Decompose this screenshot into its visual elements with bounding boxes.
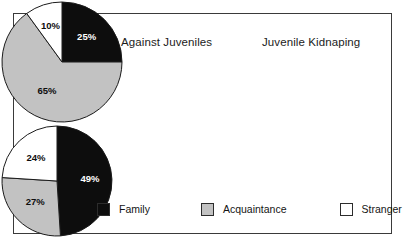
legend-item-stranger: Stranger <box>340 203 402 216</box>
pie-label-stranger: 24% <box>26 152 46 163</box>
legend-swatch-acquaintance <box>201 203 214 216</box>
pie-label-family: 49% <box>80 173 100 184</box>
legend-item-acquaintance: Acquaintance <box>201 203 287 216</box>
chart-title-right: Juvenile Kidnaping <box>262 36 360 48</box>
legend-swatch-family <box>97 203 110 216</box>
pie-label-acquaintance: 65% <box>38 85 58 96</box>
pie-right-svg: 49% 27% 24% <box>0 124 114 238</box>
pie-label-family: 25% <box>77 31 97 42</box>
pie-left-svg: 25% 65% 10% <box>0 0 124 124</box>
pie-chart-right: 49% 27% 24% <box>0 124 114 238</box>
legend-swatch-stranger <box>340 203 353 216</box>
pie-left-slices <box>2 2 122 122</box>
pie-chart-left: 25% 65% 10% <box>0 0 124 124</box>
pie-label-stranger: 10% <box>41 20 61 31</box>
legend-label-acquaintance: Acquaintance <box>223 203 287 215</box>
figure-container: All Violent Crimes Against Juveniles Juv… <box>0 0 406 246</box>
legend-item-family: Family <box>97 203 150 216</box>
legend-label-family: Family <box>119 203 150 215</box>
legend-label-stranger: Stranger <box>362 203 402 215</box>
chart-legend: Family Acquaintance Stranger <box>30 198 375 220</box>
